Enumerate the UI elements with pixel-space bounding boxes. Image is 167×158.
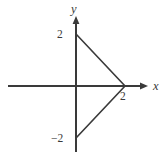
x-axis-arrowhead	[140, 83, 148, 90]
y-axis-label: y	[71, 3, 77, 16]
coordinate-plane-figure: y x 2 2 −2	[0, 0, 167, 158]
x-tick-label-2: 2	[120, 91, 126, 103]
y-tick-label-minus-2: −2	[51, 133, 63, 145]
y-axis-arrowhead	[73, 16, 80, 24]
x-axis-label: x	[153, 80, 159, 93]
plot-canvas	[0, 0, 167, 158]
y-tick-label-2: 2	[57, 29, 63, 41]
